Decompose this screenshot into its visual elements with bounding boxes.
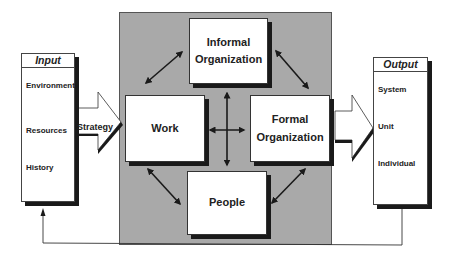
output-item-individual: Individual xyxy=(378,159,415,168)
output-box: Output System Unit Individual xyxy=(373,57,428,205)
input-box: Input Environment Resources History xyxy=(21,53,75,202)
informal-organization-label: Informal Organization xyxy=(194,34,264,68)
input-item-history: History xyxy=(26,163,54,172)
arrow-work-people xyxy=(148,169,180,204)
arrow-informal-formal xyxy=(276,51,308,88)
strategy-label: Strategy xyxy=(77,122,113,132)
input-title: Input xyxy=(22,54,74,68)
informal-organization-box: Informal Organization xyxy=(189,18,268,84)
work-box: Work xyxy=(125,95,205,162)
people-box: People xyxy=(187,171,267,235)
output-arrow xyxy=(335,95,375,162)
arrow-work-informal xyxy=(146,52,182,83)
input-item-environment: Environment xyxy=(26,81,75,90)
people-label: People xyxy=(209,194,245,211)
work-label: Work xyxy=(151,120,178,137)
formal-organization-box: Formal Organization xyxy=(250,95,330,162)
output-item-system: System xyxy=(378,85,406,94)
output-title: Output xyxy=(374,58,427,72)
arrow-formal-people xyxy=(272,169,305,203)
input-item-resources: Resources xyxy=(26,126,67,135)
output-item-unit: Unit xyxy=(378,122,394,131)
formal-organization-label: Formal Organization xyxy=(255,111,325,145)
feedback-arrowhead xyxy=(41,208,46,216)
